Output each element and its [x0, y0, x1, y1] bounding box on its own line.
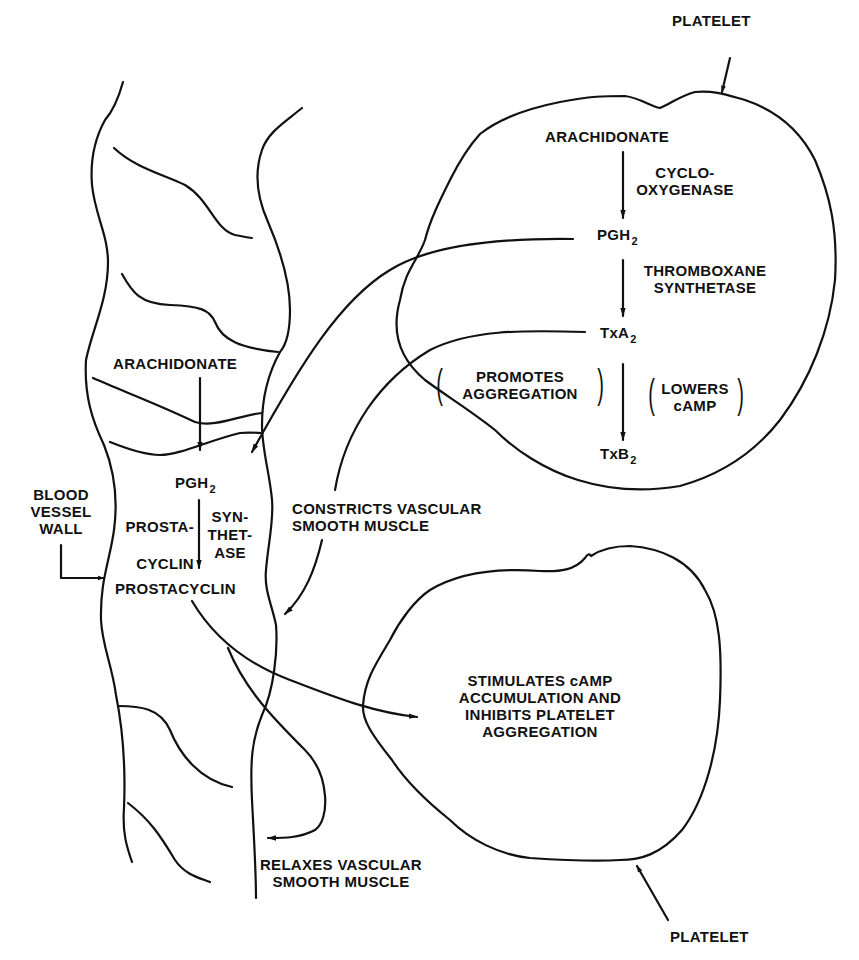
vessel-contour-5 — [118, 706, 232, 787]
prostacyclin-synthetase-right-label: SYN- THET- ASE — [204, 508, 256, 562]
lowers-paren-left: ( — [648, 374, 655, 414]
platelet-top-label: PLATELET — [672, 12, 751, 29]
blood-vessel-wall-label: BLOOD VESSEL WALL — [20, 486, 102, 537]
vessel-contour-2 — [122, 274, 278, 352]
platelet-bottom-label: PLATELET — [670, 928, 749, 945]
thromboxane-synthetase-label: THROMBOXANE SYNTHETASE — [630, 262, 780, 296]
vessel-contour-3 — [93, 378, 262, 424]
diagram-canvas: PLATELET ARACHIDONATE CYCLO- OXYGENASE P… — [0, 0, 859, 960]
vessel-contour-6 — [128, 803, 210, 882]
vessel-contour-1 — [114, 148, 252, 238]
promotes-aggregation-label: PROMOTES AGGREGATION — [440, 368, 600, 402]
platelet-top-pointer — [722, 58, 730, 92]
arrow-prostacyclin-to-platelet — [192, 601, 417, 717]
prostacyclin-label: PROSTACYCLIN — [115, 580, 236, 597]
txb2-label: TxB2 — [600, 445, 637, 464]
vessel-contour-4 — [110, 433, 262, 455]
arrow-prostacyclin-relaxes — [228, 648, 325, 838]
lowers-paren-right: ) — [737, 374, 744, 414]
vessel-wall-pointer — [61, 545, 104, 578]
diagram-drawing — [0, 0, 859, 960]
vessel-left-wall — [86, 82, 132, 862]
platelet-bottom-pointer — [637, 866, 668, 920]
relaxes-label: RELAXES VASCULAR SMOOTH MUSCLE — [256, 856, 426, 890]
platelet-pgh2-label: PGH2 — [597, 226, 638, 245]
lowers-camp-label: LOWERS cAMP — [655, 380, 735, 414]
arrow-platelet-pgh2-to-vessel — [252, 239, 573, 452]
constricts-label: CONSTRICTS VASCULAR SMOOTH MUSCLE — [292, 500, 482, 534]
arrow-constricts-to-vessel — [285, 540, 322, 614]
vessel-arachidonate-label: ARACHIDONATE — [113, 355, 237, 372]
promotes-paren-right: ) — [597, 364, 604, 404]
prostacyclin-synthetase-left-label: PROSTA- CYCLIN — [116, 508, 194, 582]
stimulates-camp-label: STIMULATES cAMP ACCUMULATION AND INHIBIT… — [440, 672, 640, 740]
txa2-label: TxA2 — [600, 324, 637, 343]
arrow-txa2-to-vessel — [335, 331, 585, 490]
vessel-pgh2-label: PGH2 — [175, 474, 216, 493]
platelet-arachidonate-label: ARACHIDONATE — [545, 128, 669, 145]
cyclooxygenase-label: CYCLO- OXYGENASE — [630, 164, 740, 198]
